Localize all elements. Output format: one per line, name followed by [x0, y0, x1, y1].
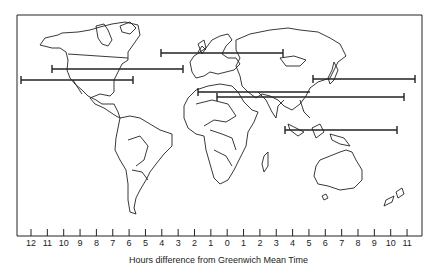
- axis-tick-label: 8: [355, 238, 360, 248]
- axis-tick-label: 0: [225, 238, 230, 248]
- axis-tick-label: 6: [127, 238, 132, 248]
- range-bar-middle-east: [198, 88, 310, 96]
- world-map: [0, 0, 437, 271]
- axis-tick-label: 12: [26, 238, 36, 248]
- range-bar-south-asia: [217, 93, 404, 101]
- axis-tick-label: 5: [306, 238, 311, 248]
- range-bar-southeast-asia: [285, 126, 397, 134]
- range-bar-north-america-lower: [21, 76, 133, 84]
- continent-outlines: [40, 22, 404, 214]
- axis-tick-label: 6: [323, 238, 328, 248]
- axis-tick-label: 9: [78, 238, 83, 248]
- axis-tick-label: 7: [339, 238, 344, 248]
- axis-tick-label: 3: [274, 238, 279, 248]
- axis-tick-label: 7: [110, 238, 115, 248]
- axis-tick-label: 4: [159, 238, 164, 248]
- axis-tick-label: 10: [386, 238, 396, 248]
- axis-tick-label: 1: [208, 238, 213, 248]
- axis-tick-label: 11: [402, 238, 411, 248]
- axis-tick-label: 2: [192, 238, 197, 248]
- axis-ticks: [31, 229, 407, 236]
- axis-tick-label: 4: [290, 238, 295, 248]
- map-frame: [17, 15, 422, 236]
- axis-tick-label: 2: [257, 238, 262, 248]
- axis-tick-label: 5: [143, 238, 148, 248]
- axis-tick-label: 8: [94, 238, 99, 248]
- range-bar-east-asia: [313, 75, 415, 83]
- axis-tick-label: 10: [59, 238, 69, 248]
- axis-title: Hours difference from Greenwich Mean Tim…: [0, 255, 437, 265]
- axis-tick-label: 11: [43, 238, 52, 248]
- range-bar-europe: [161, 49, 283, 57]
- axis-tick-label: 3: [176, 238, 181, 248]
- axis-tick-label: 1: [241, 238, 246, 248]
- range-bar-north-america-upper: [52, 65, 183, 73]
- axis-tick-label: 9: [372, 238, 377, 248]
